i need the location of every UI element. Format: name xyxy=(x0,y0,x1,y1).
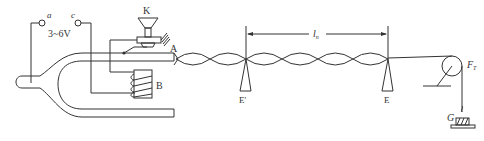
speaker-cone-icon xyxy=(138,18,158,28)
vibrator-base xyxy=(137,37,161,43)
length-label: ln xyxy=(313,28,319,40)
tuning-fork xyxy=(16,53,174,117)
weight-hatch-icon xyxy=(457,118,468,125)
arrow-right-icon xyxy=(381,32,387,36)
melde-apparatus-diagram: a c 3~6V B K A xyxy=(0,0,484,141)
vibrator-k: K xyxy=(137,5,170,47)
weight-base xyxy=(451,125,475,128)
bridge-e: E xyxy=(382,59,393,105)
terminal-a-icon xyxy=(39,20,45,26)
wire-a xyxy=(31,23,39,83)
wire-contact xyxy=(124,47,147,53)
string-to-pulley xyxy=(388,56,452,58)
weight-g: G xyxy=(447,106,475,128)
arrow-left-icon xyxy=(247,32,253,36)
wire-c xyxy=(81,23,135,93)
vibrator-foot xyxy=(141,43,155,47)
coil-b: B xyxy=(131,70,163,98)
spring-icon xyxy=(161,33,170,46)
bridge-e-prime-icon xyxy=(240,59,251,91)
length-dimension: ln xyxy=(246,26,388,59)
wave-upper xyxy=(176,53,388,59)
bridge-e-prime-label: E' xyxy=(239,95,246,105)
power-terminals: a c 3~6V xyxy=(39,10,81,39)
pulley: FT xyxy=(423,56,477,112)
voltage-label: 3~6V xyxy=(48,28,71,39)
vibrator-stem xyxy=(145,28,151,37)
bridge-e-icon xyxy=(382,59,393,91)
bridge-e-prime: E' xyxy=(239,59,251,105)
fork-body xyxy=(16,53,174,117)
terminal-c-icon xyxy=(75,20,81,26)
terminal-a-label: a xyxy=(47,10,52,20)
terminal-c-label: c xyxy=(71,10,75,20)
wave-lower xyxy=(176,59,388,65)
standing-wave xyxy=(176,53,452,65)
bridge-e-label: E xyxy=(384,95,390,105)
string-end-label: A xyxy=(170,43,178,54)
tension-label: FT xyxy=(466,59,477,71)
weight-label: G xyxy=(447,112,454,123)
coil-label: B xyxy=(156,80,163,91)
wire-vibrator xyxy=(110,40,137,72)
vibrator-label: K xyxy=(143,5,151,16)
